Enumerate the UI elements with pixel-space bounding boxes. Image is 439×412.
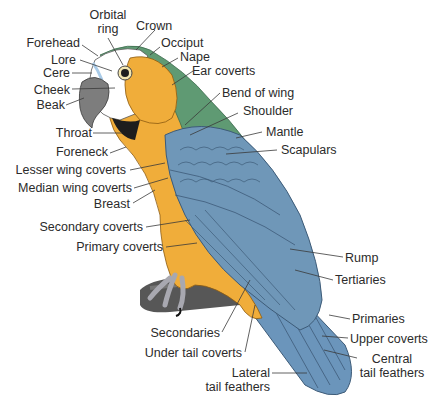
label-lateral-tail-feathers-line2: tail feathers [180, 380, 270, 394]
label-crown: Crown [136, 19, 172, 33]
label-breast: Breast [10, 197, 130, 211]
parrot-anatomy-diagram: Orbital ring Crown Occiput Nape Ear cove… [0, 0, 439, 412]
label-orbital-ring: Orbital ring [86, 8, 130, 36]
label-foreneck: Foreneck [10, 145, 108, 159]
label-nape: Nape [180, 50, 210, 64]
label-scapulars: Scapulars [281, 143, 337, 157]
label-lesser-wing-coverts: Lesser wing coverts [0, 163, 126, 177]
label-upper-coverts: Upper coverts [350, 332, 428, 346]
label-forehead: Forehead [10, 36, 80, 50]
label-throat: Throat [10, 126, 92, 140]
label-lateral-tail-feathers: Lateral tail feathers [180, 366, 270, 394]
label-beak: Beak [10, 98, 65, 112]
label-primary-coverts: Primary coverts [0, 240, 163, 254]
label-lateral-tail-feathers-line1: Lateral [180, 366, 270, 380]
label-primaries: Primaries [352, 312, 405, 326]
label-orbital-ring-line1: Orbital [86, 8, 130, 22]
label-bend-of-wing: Bend of wing [222, 86, 294, 100]
label-tertiaries: Tertiaries [335, 273, 386, 287]
label-central-tail-feathers: Central tail feathers [350, 352, 434, 380]
label-secondaries: Secondaries [140, 326, 220, 340]
label-central-tail-feathers-line2: tail feathers [350, 366, 434, 380]
label-mantle: Mantle [266, 125, 304, 139]
label-under-tail-coverts: Under tail coverts [140, 346, 242, 360]
label-median-wing-coverts: Median wing coverts [0, 181, 132, 195]
label-lore: Lore [10, 53, 76, 67]
label-cere: Cere [10, 66, 70, 80]
label-rump: Rump [345, 251, 378, 265]
label-occiput: Occiput [161, 36, 203, 50]
label-ear-coverts: Ear coverts [192, 64, 255, 78]
label-central-tail-feathers-line1: Central [350, 352, 434, 366]
label-secondary-coverts: Secondary coverts [0, 220, 143, 234]
label-orbital-ring-line2: ring [86, 22, 130, 36]
label-cheek: Cheek [10, 83, 70, 97]
label-shoulder: Shoulder [243, 104, 293, 118]
